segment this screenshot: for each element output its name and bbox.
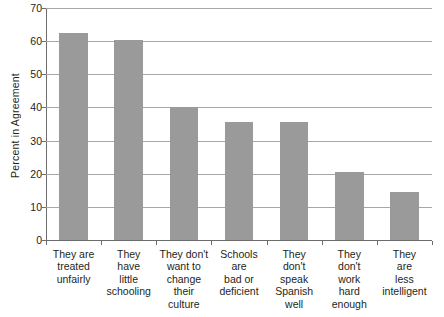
x-axis-label-line: well: [268, 298, 321, 310]
bar[interactable]: [59, 33, 88, 240]
bar[interactable]: [114, 40, 143, 240]
x-tick-mark: [322, 241, 323, 245]
bars-layer: [46, 8, 432, 240]
x-axis-label: Schoolsarebad ordeficient: [211, 248, 266, 310]
x-axis-label-line: hard: [323, 285, 376, 297]
x-axis-label-line: They: [323, 248, 376, 260]
x-axis-label-line: don't: [323, 260, 376, 272]
x-tick-mark: [267, 241, 268, 245]
y-tick-mark: [41, 74, 46, 75]
x-tick-mark: [46, 241, 47, 245]
y-tick-mark: [41, 240, 46, 241]
bar-slot: [267, 8, 322, 240]
bar[interactable]: [280, 122, 309, 240]
y-tick-mark: [41, 141, 46, 142]
x-axis-label: Theyarelessintelligent: [377, 248, 432, 310]
x-tick-mark: [101, 241, 102, 245]
x-axis-label-line: less: [378, 273, 431, 285]
bar-slot: [211, 8, 266, 240]
x-axis-label-line: Spanish: [268, 285, 321, 297]
x-axis-label-line: They: [378, 248, 431, 260]
x-axis-label-line: treated: [47, 260, 100, 272]
x-axis-label-line: want to: [157, 260, 210, 272]
bar[interactable]: [225, 122, 254, 240]
y-tick-mark: [41, 107, 46, 108]
x-axis-label-line: unfairly: [47, 273, 100, 285]
y-tick-mark: [41, 207, 46, 208]
bar[interactable]: [390, 192, 419, 240]
x-axis-label-line: are: [212, 260, 265, 272]
y-tick-mark: [41, 174, 46, 175]
x-axis-label-line: are: [378, 260, 431, 272]
x-axis-label-line: speak: [268, 273, 321, 285]
x-axis-label-line: They are: [47, 248, 100, 260]
x-axis-label-line: work: [323, 273, 376, 285]
x-tick-mark: [211, 241, 212, 245]
x-axis-label-line: intelligent: [378, 285, 431, 297]
bar[interactable]: [335, 172, 364, 240]
y-tick-mark: [41, 41, 46, 42]
x-axis-labels: They aretreatedunfairlyTheyhavelittlesch…: [46, 248, 432, 310]
x-axis-label-line: culture: [157, 298, 210, 310]
x-axis-label-line: enough: [323, 298, 376, 310]
y-axis-tick-labels: 010203040506070: [20, 8, 42, 240]
x-axis-label-line: deficient: [212, 285, 265, 297]
x-axis-label: Theydon'tspeakSpanishwell: [267, 248, 322, 310]
x-axis-label: They don'twant tochangetheirculture: [156, 248, 211, 310]
x-tick-mark: [432, 241, 433, 245]
bar-chart: Percent in Agreement 010203040506070 The…: [0, 0, 444, 317]
x-axis-label-line: They don't: [157, 248, 210, 260]
x-axis-label-line: bad or: [212, 273, 265, 285]
bar[interactable]: [170, 107, 199, 240]
bar-slot: [322, 8, 377, 240]
bar-slot: [101, 8, 156, 240]
x-axis-label: They aretreatedunfairly: [46, 248, 101, 310]
x-axis-label-line: little: [102, 273, 155, 285]
x-axis-label-line: change: [157, 273, 210, 285]
y-tick-mark: [41, 8, 46, 9]
x-axis-label-line: They: [268, 248, 321, 260]
x-tick-mark: [156, 241, 157, 245]
x-axis-label-line: have: [102, 260, 155, 272]
x-axis-ticks: [46, 241, 432, 246]
x-axis-label-line: They: [102, 248, 155, 260]
bar-slot: [377, 8, 432, 240]
x-axis-label-line: schooling: [102, 285, 155, 297]
x-tick-mark: [377, 241, 378, 245]
x-axis-label-line: don't: [268, 260, 321, 272]
x-axis-label: Theyhavelittleschooling: [101, 248, 156, 310]
x-axis-label: Theydon'tworkhardenough: [322, 248, 377, 310]
x-axis-label-line: Schools: [212, 248, 265, 260]
bar-slot: [46, 8, 101, 240]
x-axis-label-line: their: [157, 285, 210, 297]
bar-slot: [156, 8, 211, 240]
plot-area: [46, 8, 432, 240]
